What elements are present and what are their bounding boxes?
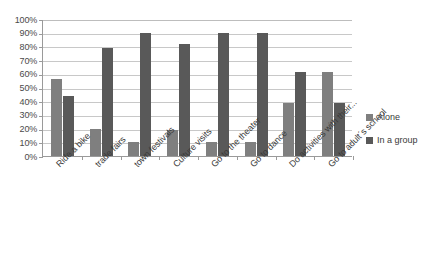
bar bbox=[128, 142, 139, 156]
y-axis-tick-label: 90% bbox=[20, 29, 37, 38]
y-axis-tick-label: 70% bbox=[20, 57, 37, 66]
bar bbox=[218, 33, 229, 156]
y-axis: 0%10%20%30%40%50%60%70%80%90%100% bbox=[0, 14, 40, 158]
y-axis-tick-label: 80% bbox=[20, 43, 37, 52]
bar bbox=[322, 72, 333, 156]
bar bbox=[283, 103, 294, 156]
legend-item-label: Alone bbox=[377, 112, 400, 122]
legend-swatch-icon bbox=[366, 137, 373, 144]
chart-legend: AloneIn a group bbox=[366, 112, 444, 158]
y-axis-tick-label: 60% bbox=[20, 70, 37, 79]
x-axis-tickmark bbox=[353, 156, 354, 160]
y-axis-tick-label: 50% bbox=[20, 84, 37, 93]
y-axis-tick-label: 10% bbox=[20, 139, 37, 148]
bar bbox=[102, 48, 113, 156]
y-axis-tick-label: 100% bbox=[15, 16, 37, 25]
bar bbox=[90, 129, 101, 156]
bar bbox=[179, 44, 190, 156]
bar-chart: 0%10%20%30%40%50%60%70%80%90%100% Ride a… bbox=[0, 0, 444, 264]
legend-item[interactable]: Alone bbox=[366, 112, 444, 122]
y-axis-tick-label: 40% bbox=[20, 98, 37, 107]
legend-item[interactable]: In a group bbox=[366, 135, 444, 145]
y-axis-tick-label: 0% bbox=[24, 153, 37, 162]
bar bbox=[51, 79, 62, 156]
bar bbox=[140, 33, 151, 156]
legend-swatch-icon bbox=[366, 114, 373, 121]
bar bbox=[245, 142, 256, 156]
y-axis-tick-label: 20% bbox=[20, 125, 37, 134]
legend-item-label: In a group bbox=[377, 135, 418, 145]
x-axis-labels: Ride a biketrade fairstown festivalsCult… bbox=[42, 158, 352, 258]
bar bbox=[257, 33, 268, 156]
y-axis-tick-label: 30% bbox=[20, 111, 37, 120]
